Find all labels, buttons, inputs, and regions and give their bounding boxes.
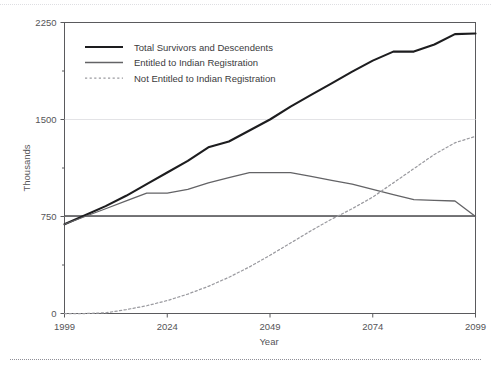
x-axis: 19992024204920742099 — [54, 314, 486, 332]
line-chart: 075015002250 19992024204920742099 Thousa… — [0, 0, 491, 368]
y-tick-label: 2250 — [35, 17, 56, 28]
bottom-divider — [10, 359, 481, 361]
x-tick-label: 1999 — [54, 321, 75, 332]
plot-area-border — [65, 23, 476, 314]
x-tick-label: 2074 — [362, 321, 383, 332]
x-tick-label: 2024 — [157, 321, 178, 332]
x-axis-title: Year — [259, 336, 278, 347]
y-axis: 075015002250 — [35, 17, 64, 319]
y-axis-title: Thousands — [21, 144, 32, 191]
x-tick-label: 2099 — [465, 321, 486, 332]
x-tick-label: 2049 — [259, 321, 280, 332]
y-tick-label: 0 — [51, 308, 56, 319]
y-tick-label: 750 — [41, 211, 57, 222]
y-tick-label: 1500 — [35, 114, 56, 125]
legend-label-1: Entitled to Indian Registration — [134, 57, 258, 68]
legend-label-2: Not Entitled to Indian Registration — [134, 73, 276, 84]
legend-label-0: Total Survivors and Descendents — [134, 42, 273, 53]
chart-page: 075015002250 19992024204920742099 Thousa… — [0, 0, 491, 368]
